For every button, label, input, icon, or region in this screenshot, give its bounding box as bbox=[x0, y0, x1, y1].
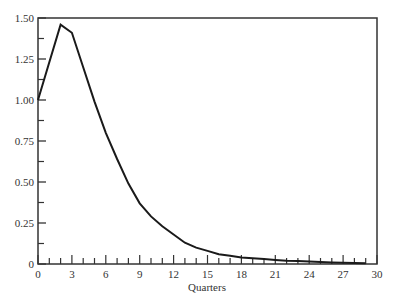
plot-border bbox=[38, 18, 377, 264]
x-tick-label: 18 bbox=[236, 268, 248, 280]
x-tick-label: 9 bbox=[137, 268, 143, 280]
y-tick-label: 1.50 bbox=[15, 12, 35, 24]
y-tick-label: 1.25 bbox=[15, 53, 35, 65]
y-tick-label: 0 bbox=[29, 258, 35, 270]
line-chart: 00.250.500.751.001.251.50 03691215182124… bbox=[0, 0, 395, 303]
y-tick-label: 0.75 bbox=[15, 135, 35, 147]
x-tick-label: 27 bbox=[338, 268, 350, 280]
x-axis: 036912151821242730 bbox=[35, 255, 383, 280]
x-tick-label: 21 bbox=[270, 268, 281, 280]
x-tick-label: 3 bbox=[69, 268, 75, 280]
plot-frame bbox=[38, 18, 377, 264]
x-tick-label: 12 bbox=[168, 268, 179, 280]
x-tick-label: 6 bbox=[103, 268, 109, 280]
x-axis-title: Quarters bbox=[188, 281, 226, 293]
y-tick-label: 1.00 bbox=[15, 94, 35, 106]
y-tick-label: 0.50 bbox=[15, 176, 35, 188]
y-tick-label: 0.25 bbox=[15, 217, 35, 229]
x-tick-label: 15 bbox=[202, 268, 214, 280]
y-axis: 00.250.500.751.001.251.50 bbox=[15, 12, 46, 270]
x-tick-label: 24 bbox=[304, 268, 316, 280]
x-tick-label: 30 bbox=[372, 268, 384, 280]
data-line bbox=[38, 25, 366, 264]
x-tick-label: 0 bbox=[35, 268, 41, 280]
